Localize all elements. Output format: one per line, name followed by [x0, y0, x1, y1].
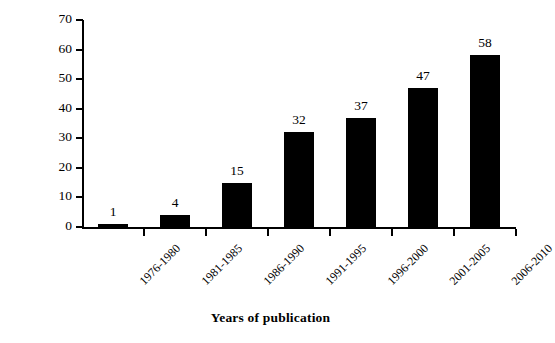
y-axis-tick [76, 167, 83, 169]
bar [284, 132, 314, 227]
y-axis-tick [76, 108, 83, 110]
x-axis-title: Years of publication [0, 310, 541, 326]
bar-value-label: 37 [336, 99, 386, 113]
bar [408, 88, 438, 227]
y-axis-tick [76, 226, 83, 228]
bar-value-label: 47 [398, 69, 448, 83]
y-axis-tick [76, 78, 83, 80]
x-axis-category-label: 1981-1985 [199, 242, 245, 288]
bar-value-label: 15 [212, 164, 262, 178]
x-axis-tick [143, 229, 145, 236]
x-axis-category-label: 1986-1990 [261, 242, 307, 288]
bar-value-label: 32 [274, 113, 324, 127]
bar-value-label: 58 [460, 36, 510, 50]
y-axis-tick-label-text: 30 [44, 130, 72, 144]
x-axis-tick [205, 229, 207, 236]
bar-value-label: 1 [88, 205, 138, 219]
y-axis-tick-label: 50 [40, 71, 72, 85]
y-axis-tick-label-text: 0 [44, 219, 72, 233]
y-axis-tick-label: 10 [40, 189, 72, 203]
y-axis-tick-label: 40 [40, 101, 72, 115]
y-axis-tick-label-text: 40 [44, 101, 72, 115]
x-axis-tick [515, 229, 517, 236]
y-axis-tick-label-text: 10 [44, 189, 72, 203]
y-axis-tick [76, 137, 83, 139]
y-axis-tick-label: 70 [40, 12, 72, 26]
x-axis-tick [329, 229, 331, 236]
y-axis-tick-label-text: 60 [44, 42, 72, 56]
y-axis-tick-label: 0 [40, 219, 72, 233]
bar-value-label: 4 [150, 196, 200, 210]
y-axis-tick-label-text: 20 [44, 160, 72, 174]
bar [222, 183, 252, 227]
bar [98, 224, 128, 227]
x-axis-tick [453, 229, 455, 236]
y-axis-tick-label: 20 [40, 160, 72, 174]
y-axis-tick-label-text: 50 [44, 71, 72, 85]
x-axis-category-label: 2006-2010 [509, 242, 555, 288]
x-axis-tick [267, 229, 269, 236]
x-axis-category-label: 2001-2005 [447, 242, 493, 288]
x-axis-line [82, 227, 516, 229]
y-axis-tick [76, 196, 83, 198]
bar [346, 118, 376, 227]
x-axis-category-label: 1996-2000 [385, 242, 431, 288]
y-axis-tick-label-text: 70 [44, 12, 72, 26]
y-axis-tick-label: 60 [40, 42, 72, 56]
x-axis-category-label: 1991-1995 [323, 242, 369, 288]
y-axis-tick [76, 19, 83, 21]
y-axis-tick-label: 30 [40, 130, 72, 144]
bar [470, 55, 500, 227]
x-axis-category-label: 1976-1980 [137, 242, 183, 288]
y-axis-tick [76, 49, 83, 51]
x-axis-tick [391, 229, 393, 236]
bar [160, 215, 190, 227]
